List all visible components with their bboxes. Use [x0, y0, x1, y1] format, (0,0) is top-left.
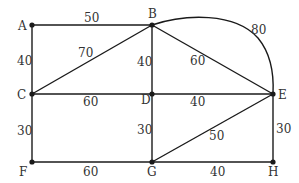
node-h — [270, 159, 275, 164]
weight-b-e-curved: 80 — [251, 23, 266, 37]
node-label-d: D — [141, 93, 151, 107]
weight-b-c: 70 — [78, 46, 93, 60]
node-label-a: A — [17, 19, 27, 33]
weighted-graph-diagram: A B C D E F G H 50 40 70 40 60 80 60 40 … — [0, 0, 299, 183]
node-label-f: F — [19, 165, 27, 179]
weight-f-g: 60 — [83, 165, 98, 179]
node-e — [270, 91, 275, 96]
weight-d-e: 40 — [190, 95, 205, 109]
weight-a-b: 50 — [84, 11, 99, 25]
node-label-g: G — [147, 165, 157, 179]
weight-e-g: 50 — [209, 129, 224, 143]
node-f — [29, 159, 34, 164]
node-label-h: H — [268, 165, 278, 179]
node-label-c: C — [17, 88, 26, 102]
weight-a-c: 40 — [17, 54, 32, 68]
node-a — [29, 22, 34, 27]
node-c — [29, 91, 34, 96]
weight-b-d: 40 — [137, 55, 152, 69]
node-g — [149, 159, 154, 164]
node-label-b: B — [148, 7, 157, 21]
weight-e-h: 30 — [276, 122, 291, 136]
weight-c-f: 30 — [17, 124, 32, 138]
weight-c-d: 60 — [83, 95, 98, 109]
node-b — [149, 22, 154, 27]
weight-g-h: 40 — [210, 165, 225, 179]
weight-d-g: 30 — [137, 123, 152, 137]
node-label-e: E — [278, 88, 287, 102]
weight-b-e: 60 — [190, 54, 205, 68]
edge-e-g — [152, 94, 273, 162]
